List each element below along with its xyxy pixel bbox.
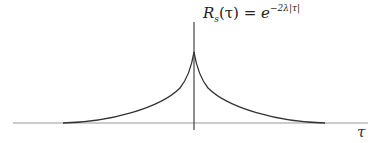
formula-exponent: −2λ|τ|: [270, 3, 300, 13]
formula-subscript: s: [214, 14, 219, 24]
autocorrelation-formula: Rs(τ) = e−2λ|τ|: [203, 4, 300, 22]
formula-base: e: [261, 4, 270, 22]
autocorrelation-plot: [0, 0, 380, 143]
x-axis-label: τ: [357, 123, 365, 141]
right-exponential-curve: [194, 52, 325, 123]
formula-argument: (τ): [219, 4, 239, 22]
left-exponential-curve: [63, 52, 194, 123]
formula-symbol: R: [203, 4, 214, 22]
formula-equals: =: [239, 4, 261, 22]
